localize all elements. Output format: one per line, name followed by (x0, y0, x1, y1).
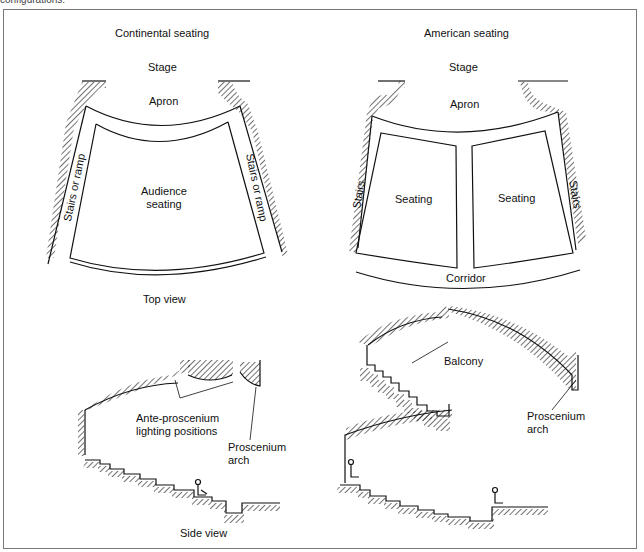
side-view-label: Side view (180, 527, 227, 540)
american-seating-right-label: Seating (498, 192, 535, 205)
continental-stage-label: Stage (148, 61, 177, 74)
american-plan (349, 81, 586, 289)
continental-apron-label: Apron (149, 95, 178, 108)
american-title: American seating (424, 27, 509, 40)
ante-proscenium-label: Ante-proscenium lighting positions (136, 412, 219, 438)
left-proscenium-arch-label: Proscenium arch (228, 441, 286, 467)
top-view-label: Top view (143, 293, 186, 306)
american-seating-left-label: Seating (395, 193, 432, 206)
american-apron-label: Apron (450, 98, 479, 111)
corridor-label: Corridor (446, 272, 486, 285)
right-proscenium-arch-label: Proscenium arch (527, 410, 585, 436)
continental-title: Continental seating (115, 27, 209, 40)
audience-seating-label: Audience seating (141, 185, 187, 211)
balcony-label: Balcony (444, 355, 483, 368)
american-stage-label: Stage (449, 61, 478, 74)
theatre-diagram (0, 0, 644, 552)
